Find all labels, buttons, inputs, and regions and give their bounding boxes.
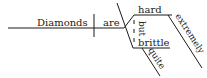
subject-word: Diamonds	[37, 17, 88, 28]
verb-word: are	[103, 17, 120, 28]
complement-hard: hard	[138, 4, 162, 15]
conjunction-word: but	[137, 21, 147, 37]
fork-upper	[124, 15, 134, 28]
modifier-quite: quite	[146, 46, 167, 71]
sentence-diagram: Diamonds are hard brittle but extremely …	[0, 0, 207, 78]
